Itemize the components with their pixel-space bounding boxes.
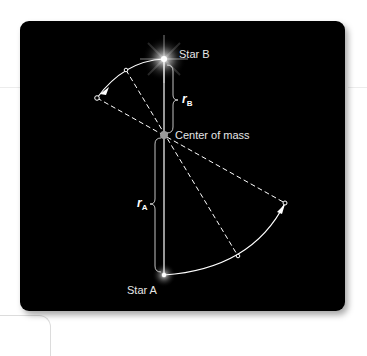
star-b-point: [161, 56, 167, 62]
star-b-label: Star B: [179, 49, 210, 60]
dashed-line-end-positions: [97, 98, 285, 203]
star-b-end-marker: [95, 96, 100, 101]
r-a-subscript: A: [142, 203, 148, 212]
star-a-point: [162, 273, 166, 277]
background-rule-left: [0, 87, 20, 88]
background-tab-outline: [0, 315, 51, 356]
center-of-mass-marker: [160, 131, 168, 139]
r-a-brace: [150, 138, 161, 272]
star-a-orbit-arc: [164, 203, 285, 275]
center-of-mass-label: Center of mass: [175, 130, 250, 141]
star-a-mid-marker: [236, 254, 240, 258]
orbit-diagram: [20, 21, 345, 311]
star-a-end-marker: [283, 201, 287, 205]
background-rule-right: [348, 87, 367, 88]
r-b-subscript: B: [187, 99, 193, 108]
star-a-label: Star A: [127, 285, 157, 296]
diagram-panel: Star B Center of mass Star A rB rA: [20, 21, 345, 311]
r-a-label: rA: [137, 197, 147, 212]
arrow-icon: [277, 204, 285, 214]
r-b-label: rB: [182, 93, 192, 108]
star-b-mid-marker: [124, 68, 128, 72]
